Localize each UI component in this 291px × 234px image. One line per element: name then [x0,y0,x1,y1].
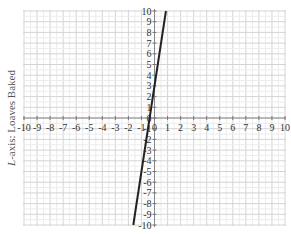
y-axis-variable: L [5,160,17,166]
y-tick-label: -9 [143,209,151,220]
y-tick-label: 8 [147,27,152,38]
x-tick-label: -10 [17,122,30,133]
y-tick-label: 5 [147,59,152,70]
coordinate-plane: -10-9-8-7-6-5-4-3-2-1012345678910-10-9-8… [0,0,291,234]
x-tick-label: -4 [98,122,106,133]
x-tick-label: 1 [165,122,170,133]
x-tick-label: -8 [46,122,54,133]
y-tick-label: 4 [147,70,152,81]
y-tick-label: 2 [147,91,152,102]
x-tick-label: 7 [243,122,248,133]
y-tick-label: 6 [147,48,152,59]
x-tick-label: -6 [72,122,80,133]
x-tick-label: 0 [152,122,157,133]
x-tick-label: -2 [124,122,132,133]
x-tick-label: 10 [280,122,290,133]
y-tick-label: -5 [143,166,151,177]
y-tick-label: 10 [142,6,152,17]
x-tick-label: -3 [111,122,119,133]
x-tick-label: 9 [269,122,274,133]
y-tick-label: -7 [143,187,151,198]
y-tick-label: -10 [138,220,151,231]
y-tick-label: 7 [147,38,152,49]
x-tick-label: 2 [178,122,183,133]
x-tick-label: -5 [85,122,93,133]
axes [23,9,286,227]
x-tick-label: 4 [204,122,209,133]
y-tick-label: 9 [147,16,152,27]
y-tick-label: -6 [143,177,151,188]
y-tick-label: 3 [147,80,152,91]
x-tick-label: 8 [256,122,261,133]
x-tick-label: 6 [230,122,235,133]
y-axis-label: L-axis: Loaves Baked [5,70,17,166]
y-tick-label: -8 [143,198,151,209]
x-tick-label: -9 [33,122,41,133]
x-tick-label: 5 [217,122,222,133]
y-axis-label-text: -axis: Loaves Baked [5,70,17,160]
x-tick-label: -7 [59,122,67,133]
x-tick-label: 3 [191,122,196,133]
